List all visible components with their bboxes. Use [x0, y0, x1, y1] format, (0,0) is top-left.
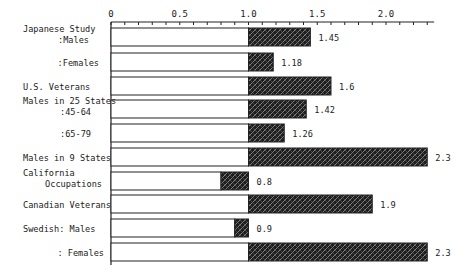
risk-bar	[249, 77, 332, 95]
category-label: Males in 9 States	[23, 153, 111, 163]
risk-bar	[221, 172, 249, 190]
bar-row: 2.3: Females	[57, 243, 450, 261]
bar-row: 1.9Canadian Veterans	[23, 195, 396, 213]
baseline-box	[111, 195, 249, 213]
baseline-box	[111, 77, 249, 95]
risk-bar	[249, 243, 428, 261]
baseline-box	[111, 172, 221, 190]
relative-risk-bar-chart: 00.51.01.52.0 1.45Japanese Study:Males1.…	[0, 0, 472, 277]
bar-value-label: 0.8	[257, 177, 273, 187]
category-label: :Males	[58, 35, 89, 45]
baseline-box	[111, 148, 249, 166]
risk-bar	[249, 53, 274, 71]
baseline-box	[111, 124, 249, 142]
x-tick-label: 0	[108, 9, 113, 19]
category-label: : Females	[57, 248, 104, 258]
bar-row: 1.26:65-79	[60, 124, 313, 142]
risk-bar	[235, 219, 249, 237]
bar-row: 0.8CaliforniaOccupations	[23, 168, 272, 190]
bar-value-label: 1.45	[318, 33, 339, 43]
category-label: Swedish: Males	[23, 224, 95, 234]
bar-value-label: 1.18	[281, 58, 302, 68]
bar-row: 1.42Males in 25 States:45-64	[23, 96, 335, 118]
bar-rows: 1.45Japanese Study:Males1.18:Females1.6U…	[23, 22, 451, 265]
category-label: Canadian Veterans	[23, 200, 111, 210]
baseline-box	[111, 28, 249, 46]
bar-value-label: 1.6	[339, 82, 355, 92]
category-label: Males in 25 States	[23, 96, 116, 106]
x-tick-label: 1.5	[309, 9, 325, 19]
bar-value-label: 1.26	[292, 129, 313, 139]
risk-bar	[249, 195, 373, 213]
bar-value-label: 0.9	[257, 224, 273, 234]
x-axis: 00.51.01.52.0	[108, 9, 434, 25]
risk-bar	[249, 28, 311, 46]
risk-bar	[249, 148, 428, 166]
risk-bar	[249, 100, 307, 118]
bar-row: 1.6U.S. Veterans	[23, 77, 355, 95]
bar-value-label: 2.3	[435, 248, 451, 258]
category-label: Japanese Study	[23, 24, 95, 34]
baseline-box	[111, 243, 249, 261]
x-tick-label: 0.5	[172, 9, 188, 19]
category-label: :45-64	[60, 107, 91, 117]
category-label: :65-79	[60, 129, 91, 139]
category-label: :Females	[58, 58, 99, 68]
x-tick-label: 2.0	[378, 9, 394, 19]
baseline-box	[111, 219, 235, 237]
bar-row: 1.45Japanese Study:Males	[23, 24, 339, 46]
bar-value-label: 1.42	[314, 105, 335, 115]
baseline-box	[111, 53, 249, 71]
bar-row: 0.9Swedish: Males	[23, 219, 272, 237]
category-label: California	[23, 168, 75, 178]
bar-row: 1.18:Females	[58, 53, 302, 71]
category-label: Occupations	[45, 179, 102, 189]
bar-value-label: 1.9	[380, 200, 396, 210]
x-tick-label: 1.0	[240, 9, 256, 19]
baseline-box	[111, 100, 249, 118]
bar-row: 2.3Males in 9 States	[23, 148, 451, 166]
bar-value-label: 2.3	[435, 153, 451, 163]
category-label: U.S. Veterans	[23, 82, 90, 92]
risk-bar	[249, 124, 285, 142]
